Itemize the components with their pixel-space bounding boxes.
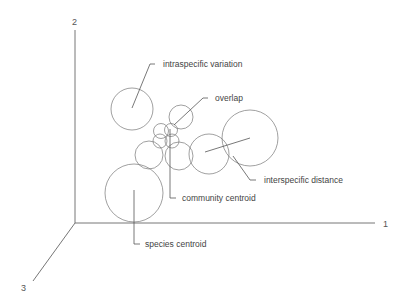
- leader-overlap: [174, 98, 208, 125]
- axis-2-label: 2: [72, 17, 77, 27]
- axis-3-label: 3: [21, 283, 26, 293]
- ordination-diagram: 2 1 3 intraspecific variation overlap in…: [0, 0, 406, 307]
- species-circle-small-b: [165, 124, 178, 137]
- species-circle-intraspecific: [111, 88, 153, 130]
- label-interspecific-distance: interspecific distance: [264, 175, 343, 185]
- label-community-centroid: community centroid: [182, 193, 256, 203]
- leader-community-centroid: [170, 129, 176, 198]
- axis-3-line: [33, 223, 75, 281]
- leader-interspecific-distance: [233, 156, 256, 180]
- label-overlap: overlap: [215, 93, 243, 103]
- leader-species-centroid: [134, 190, 140, 244]
- label-intraspecific-variation: intraspecific variation: [163, 59, 243, 69]
- interspecific-distance-line: [205, 138, 250, 152]
- species-circle-overlap: [169, 105, 193, 129]
- label-species-centroid: species centroid: [145, 239, 207, 249]
- axis-1-label: 1: [383, 219, 388, 229]
- species-circle-right-mid: [189, 134, 229, 174]
